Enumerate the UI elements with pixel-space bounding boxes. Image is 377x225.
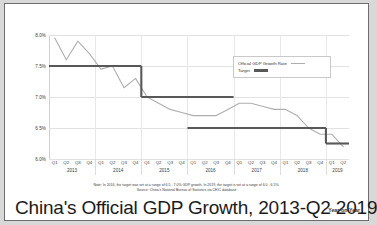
x-tick-quarter: Q4	[179, 160, 185, 165]
series-lines	[49, 35, 349, 159]
x-tick-quarter: Q4	[225, 160, 231, 165]
gdp-growth-chart: 8.0% 7.5% 7.0% 6.5% 6.0% Q1Q2Q3Q42013Q1Q…	[5, 4, 368, 178]
x-tick-quarter: Q2	[202, 160, 208, 165]
legend-label-target: Target	[238, 68, 250, 73]
legend-label-official: Official GDP Growth Rate	[238, 61, 287, 66]
x-tick-quarter: Q2	[248, 160, 254, 165]
x-tick-quarter: Q3	[75, 160, 81, 165]
x-tick-quarter: Q1	[283, 160, 289, 165]
x-axis-year-separator	[187, 159, 188, 175]
y-tick-label: 6.5%	[35, 126, 46, 131]
x-tick-quarter: Q1	[98, 160, 104, 165]
x-tick-quarter: Q3	[306, 160, 312, 165]
slide-canvas: 8.0% 7.5% 7.0% 6.5% 6.0% Q1Q2Q3Q42013Q1Q…	[4, 3, 369, 221]
official-growth-line	[55, 38, 343, 147]
x-tick-quarter: Q4	[271, 160, 277, 165]
legend-swatch-official-icon	[291, 63, 305, 65]
x-tick-quarter: Q2	[110, 160, 116, 165]
title-bar: China's Official GDP Growth, 2013-Q2 201…	[5, 196, 368, 221]
legend-item-target: Target	[238, 67, 326, 74]
subtitle: Year-on-Year	[328, 207, 360, 213]
x-tick-quarter: Q2	[340, 160, 346, 165]
x-tick-year: 2017	[252, 168, 262, 173]
y-tick-label: 7.5%	[35, 64, 46, 69]
chart-legend: Official GDP Growth Rate Target	[233, 56, 331, 78]
x-tick-quarter: Q3	[213, 160, 219, 165]
x-axis: Q1Q2Q3Q42013Q1Q2Q3Q42014Q1Q2Q3Q42015Q1Q2…	[49, 159, 349, 181]
x-tick-year: 2018	[298, 168, 308, 173]
x-tick-year: 2014	[113, 168, 123, 173]
x-tick-year: 2015	[159, 168, 169, 173]
x-tick-quarter: Q1	[236, 160, 242, 165]
x-tick-quarter: Q4	[86, 160, 92, 165]
page-title: China's Official GDP Growth, 2013-Q2 201…	[15, 197, 377, 219]
y-tick-label: 6.0%	[35, 157, 46, 162]
x-axis-year-separator	[326, 159, 327, 175]
x-tick-quarter: Q3	[260, 160, 266, 165]
x-tick-quarter: Q3	[167, 160, 173, 165]
y-tick-label: 7.0%	[35, 95, 46, 100]
x-tick-quarter: Q2	[63, 160, 69, 165]
x-tick-year: 2016	[205, 168, 215, 173]
y-tick-label: 8.0%	[35, 33, 46, 38]
x-tick-quarter: Q2	[156, 160, 162, 165]
legend-swatch-target-icon	[254, 69, 268, 72]
x-axis-year-separator	[234, 159, 235, 175]
chart-notes: Note: In 2016, the target was set at a r…	[5, 183, 368, 194]
x-tick-quarter: Q3	[121, 160, 127, 165]
x-tick-quarter: Q4	[317, 160, 323, 165]
x-tick-quarter: Q1	[329, 160, 335, 165]
legend-item-official: Official GDP Growth Rate	[238, 60, 326, 67]
x-tick-year: 2013	[67, 168, 77, 173]
x-axis-year-separator	[95, 159, 96, 175]
x-axis-year-separator	[280, 159, 281, 175]
x-axis-year-separator	[141, 159, 142, 175]
x-tick-quarter: Q1	[144, 160, 150, 165]
source-text: Source: China's National Bureau of Stati…	[5, 188, 368, 193]
x-tick-quarter: Q1	[190, 160, 196, 165]
x-tick-quarter: Q1	[52, 160, 58, 165]
plot-area: 8.0% 7.5% 7.0% 6.5% 6.0%	[49, 35, 349, 159]
x-tick-year: 2019	[332, 168, 342, 173]
x-tick-quarter: Q2	[294, 160, 300, 165]
x-tick-quarter: Q4	[133, 160, 139, 165]
